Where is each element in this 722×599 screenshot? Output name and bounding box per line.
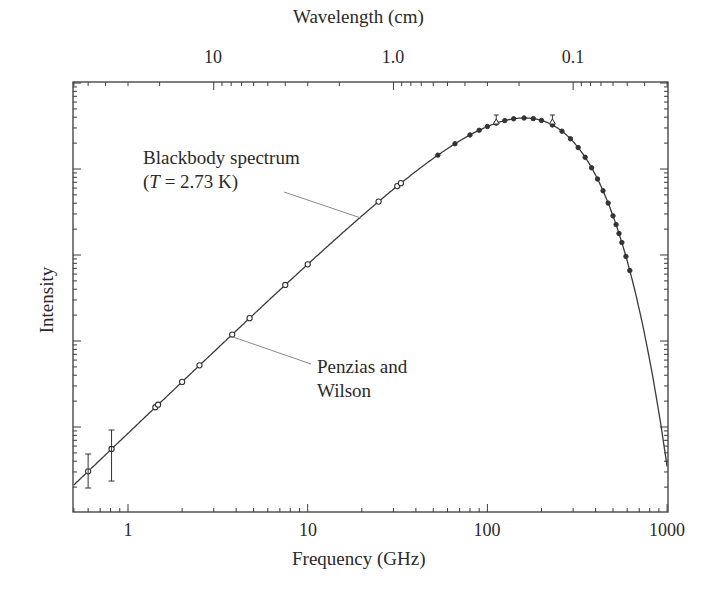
data-point-filled [560,129,564,133]
data-point-filled [595,177,599,181]
data-point-filled [539,118,543,122]
data-point-open [155,402,160,407]
data-point-filled [620,240,624,244]
data-point-filled [601,189,605,193]
top-axis-tick-label: 10 [204,47,222,68]
data-point-filled [531,116,535,120]
data-point-filled [606,201,610,205]
data-point-open [247,316,252,321]
data-point-filled [511,117,515,121]
triangle-marker [549,119,555,124]
data-point-filled [628,268,632,272]
data-point-open [283,282,288,287]
top-axis-title: Wavelength (cm) [293,6,424,28]
data-point-open [305,262,310,267]
top-axis-tick-label: 0.1 [562,47,585,68]
blackbody-label-line1: Blackbody spectrum [143,146,300,170]
x-axis-tick-label: 100 [474,520,501,541]
data-point-filled [503,118,507,122]
data-point-filled [624,254,628,258]
data-point-filled [436,153,440,157]
blackbody-annotation: Blackbody spectrum (T = 2.73 K) [143,146,300,194]
data-point-open [230,332,235,337]
x-axis-tick-label: 10 [299,520,317,541]
data-point-filled [576,145,580,149]
data-point-filled [583,155,587,159]
data-point-filled [611,214,615,218]
data-point-filled [522,116,526,120]
x-axis-tick-label: 1000 [649,520,685,541]
penzias-leader-line [233,337,311,364]
y-axis-title: Intensity [36,267,58,334]
penzias-wilson-annotation: Penzias and Wilson [317,355,407,403]
data-point-open [398,181,403,186]
data-point-filled [614,222,618,226]
data-point-filled [468,133,472,137]
chart-canvas [0,0,722,599]
penzias-label-line2: Wilson [317,379,407,403]
data-point-open [179,379,184,384]
x-axis-tick-label: 1 [124,520,133,541]
blackbody-label-line2: (T = 2.73 K) [143,170,300,194]
data-point-open [197,363,202,368]
data-point-filled [617,231,621,235]
x-axis-title: Frequency (GHz) [292,548,425,570]
data-point-filled [589,166,593,170]
data-point-filled [485,124,489,128]
data-point-filled [453,142,457,146]
data-point-open [376,199,381,204]
blackbody-leader-line [284,192,361,218]
data-point-filled [568,137,572,141]
top-axis-tick-label: 1.0 [382,47,405,68]
data-point-filled [477,128,481,132]
penzias-label-line1: Penzias and [317,355,407,379]
